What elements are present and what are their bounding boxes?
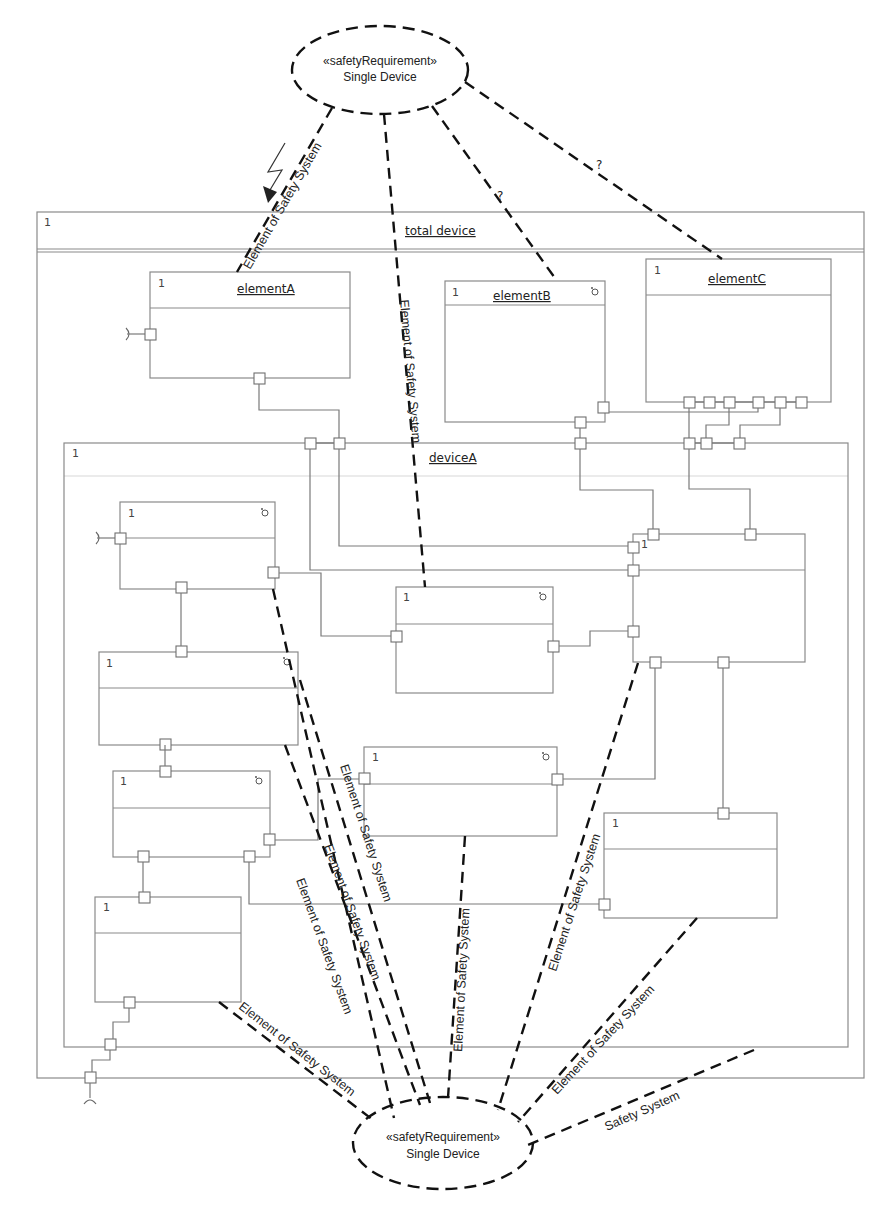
inner-part-5[interactable]: 1 xyxy=(391,587,559,693)
part-3-port-top[interactable] xyxy=(160,766,171,777)
element-c-block[interactable]: 1 elementC xyxy=(646,259,831,408)
edge-label-bottom-5: Element of Safety System xyxy=(451,908,473,1052)
element-a-block[interactable]: 1 elementA xyxy=(126,272,350,384)
part-3-port-bottom-right[interactable] xyxy=(244,851,255,862)
element-c-port-5[interactable] xyxy=(775,397,786,408)
part-6-port-left[interactable] xyxy=(359,773,370,784)
part-8-port-top[interactable] xyxy=(718,808,729,819)
element-c-port-3[interactable] xyxy=(724,397,735,408)
requirement-stereotype: «safetyRequirement» xyxy=(386,1130,500,1144)
part-1-port-right[interactable] xyxy=(268,567,279,578)
edge-label-safety-system: Safety System xyxy=(603,1088,682,1134)
requirement-name: Single Device xyxy=(406,1147,480,1161)
element-c-port-4[interactable] xyxy=(753,397,764,408)
device-a-port-top-2[interactable] xyxy=(334,438,345,449)
part-multiplicity: 1 xyxy=(372,751,379,764)
part-5-port-right[interactable] xyxy=(548,641,559,652)
part-6-port-right[interactable] xyxy=(552,774,563,785)
top-level-connectors xyxy=(259,384,780,441)
part-4-port-top[interactable] xyxy=(139,892,150,903)
device-a-port-top-5[interactable] xyxy=(701,438,712,449)
edge-label-bottom-6: Element of Safety System xyxy=(546,832,604,973)
element-a-title: elementA xyxy=(237,282,295,296)
element-c-title: elementC xyxy=(708,272,766,286)
part-4-port-bottom[interactable] xyxy=(124,997,135,1008)
device-a-port-top-4[interactable] xyxy=(684,438,695,449)
part-multiplicity: 1 xyxy=(641,538,648,551)
part-8-port-left[interactable] xyxy=(599,899,610,910)
element-b-block[interactable]: 1 elementB xyxy=(445,281,609,428)
component-icon xyxy=(255,776,262,784)
safety-requirement-top[interactable]: «safetyRequirement» Single Device xyxy=(292,26,468,114)
total-device-title: total device xyxy=(405,224,476,238)
element-c-port-1[interactable] xyxy=(684,397,695,408)
element-b-port-right[interactable] xyxy=(598,402,609,413)
device-a-title: deviceA xyxy=(429,451,477,465)
element-c-port-6[interactable] xyxy=(796,397,807,408)
part-7-port-bottom-1[interactable] xyxy=(650,657,661,668)
diagram-canvas: 1 total device 1 elementA 1 elementB 1 e… xyxy=(0,0,889,1222)
part-7-port-left-2[interactable] xyxy=(628,565,639,576)
safety-requirement-bottom[interactable]: «safetyRequirement» Single Device xyxy=(353,1097,533,1189)
element-c-port-2[interactable] xyxy=(704,397,715,408)
part-7-port-bottom-2[interactable] xyxy=(718,657,729,668)
element-b-port-bottom[interactable] xyxy=(575,417,586,428)
part-multiplicity: 1 xyxy=(403,591,410,604)
device-a-port-top-6[interactable] xyxy=(734,438,745,449)
element-b-title: elementB xyxy=(493,289,551,303)
element-a-multiplicity: 1 xyxy=(158,277,165,290)
part-3-port-right[interactable] xyxy=(264,834,275,845)
element-b-multiplicity: 1 xyxy=(452,286,459,299)
part-multiplicity: 1 xyxy=(612,817,619,830)
inner-part-6[interactable]: 1 xyxy=(359,747,563,836)
requirement-stereotype: «safetyRequirement» xyxy=(323,54,437,68)
inner-part-8[interactable]: 1 xyxy=(599,808,777,918)
internal-connectors xyxy=(92,449,750,1072)
part-multiplicity: 1 xyxy=(128,507,135,520)
element-a-port-bottom[interactable] xyxy=(254,373,265,384)
edge-label-center: Element of Safety System xyxy=(397,299,423,443)
part-2-port-top[interactable] xyxy=(176,646,187,657)
element-a-port-left[interactable] xyxy=(145,329,156,340)
part-7-port-top-2[interactable] xyxy=(745,529,756,540)
inner-part-7[interactable]: 1 xyxy=(628,529,805,668)
part-5-port-left[interactable] xyxy=(391,631,402,642)
requirement-name: Single Device xyxy=(343,70,417,84)
total-device-frame[interactable]: 1 total device xyxy=(37,212,864,1078)
part-multiplicity: 1 xyxy=(106,657,113,670)
device-a-port-bottom[interactable] xyxy=(105,1039,116,1050)
total-device-multiplicity: 1 xyxy=(44,216,51,229)
part-7-port-top-1[interactable] xyxy=(648,529,659,540)
edge-label-bottom-7: Element of Safety System xyxy=(549,982,657,1097)
component-icon xyxy=(542,752,549,760)
part-multiplicity: 1 xyxy=(120,775,127,788)
element-c-multiplicity: 1 xyxy=(654,264,661,277)
required-interface-icon xyxy=(84,1100,96,1104)
component-icon xyxy=(591,287,598,295)
part-3-port-bottom-left[interactable] xyxy=(138,851,149,862)
component-icon xyxy=(261,508,268,516)
edge-label-bottom-1: Element of Safety System xyxy=(236,999,358,1099)
part-1-port-left[interactable] xyxy=(115,533,126,544)
edge-label-element-c: ? xyxy=(596,158,602,172)
inner-part-4[interactable]: 1 xyxy=(95,892,241,1008)
bottom-dependencies xyxy=(219,589,754,1145)
total-device-port-bottom[interactable] xyxy=(84,1072,96,1104)
part-1-port-bottom[interactable] xyxy=(176,582,187,593)
device-a-multiplicity: 1 xyxy=(72,447,79,460)
component-icon xyxy=(539,592,546,600)
inner-part-2[interactable]: 1 xyxy=(99,646,298,750)
part-7-port-left-3[interactable] xyxy=(628,626,639,637)
device-a-port-top-3[interactable] xyxy=(575,438,586,449)
edge-label-element-b: ? xyxy=(497,189,503,203)
inner-part-3[interactable]: 1 xyxy=(113,766,275,862)
part-multiplicity: 1 xyxy=(103,901,110,914)
device-a-port-top-1[interactable] xyxy=(305,438,316,449)
part-7-port-left-1[interactable] xyxy=(628,542,639,553)
inner-part-1[interactable]: 1 xyxy=(96,502,279,593)
